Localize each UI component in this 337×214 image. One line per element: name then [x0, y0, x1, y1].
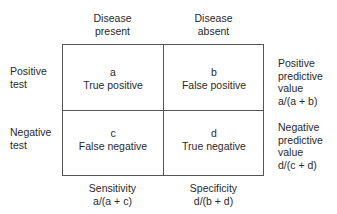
metric-formula: d/(b + d) [163, 195, 264, 208]
column-header-line1: Disease [163, 12, 264, 25]
metric-line1: Positive [278, 57, 323, 70]
metric-formula: d/(c + d) [278, 159, 323, 172]
metric-formula: a/(a + c) [62, 195, 163, 208]
row-header-positive-test: Positive test [10, 65, 47, 90]
cell-letter: a [63, 66, 163, 79]
cell-letter: c [63, 127, 163, 140]
positive-predictive-value: Positive predictive value a/(a + b) [278, 57, 323, 107]
cell-label: False positive [164, 79, 264, 92]
row-header-line1: Positive [10, 65, 47, 78]
cell-letter: d [164, 127, 264, 140]
metric-line2: predictive [278, 70, 323, 83]
cell-label: True positive [63, 79, 163, 92]
cell-false-negative: c False negative [63, 127, 163, 152]
cell-false-positive: b False positive [164, 66, 264, 91]
row-header-negative-test: Negative test [10, 126, 51, 151]
cell-true-negative: d True negative [164, 127, 264, 152]
cell-letter: b [164, 66, 264, 79]
metric-line3: value [278, 82, 323, 95]
cell-label: True negative [164, 140, 264, 153]
specificity: Specificity d/(b + d) [163, 182, 264, 207]
contingency-table: a True positive b False positive c False… [62, 44, 264, 176]
cell-label: False negative [63, 140, 163, 153]
column-header-line2: absent [163, 25, 264, 38]
grid-divider-horizontal [63, 110, 263, 111]
metric-line1: Negative [278, 121, 323, 134]
column-header-disease-present: Disease present [62, 12, 163, 37]
row-header-line2: test [10, 139, 51, 152]
sensitivity: Sensitivity a/(a + c) [62, 182, 163, 207]
row-header-line2: test [10, 78, 47, 91]
metric-label: Sensitivity [62, 182, 163, 195]
metric-line2: predictive [278, 134, 323, 147]
negative-predictive-value: Negative predictive value d/(c + d) [278, 121, 323, 171]
column-header-line2: present [62, 25, 163, 38]
cell-true-positive: a True positive [63, 66, 163, 91]
column-header-disease-absent: Disease absent [163, 12, 264, 37]
metric-formula: a/(a + b) [278, 95, 323, 108]
column-header-line1: Disease [62, 12, 163, 25]
metric-line3: value [278, 146, 323, 159]
metric-label: Specificity [163, 182, 264, 195]
row-header-line1: Negative [10, 126, 51, 139]
